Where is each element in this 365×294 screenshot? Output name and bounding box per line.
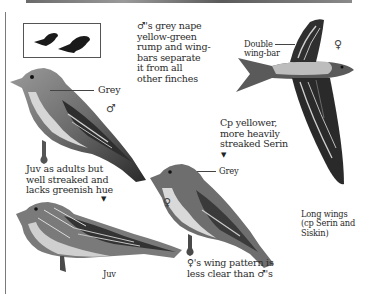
- top-border-rule: [26, 0, 352, 3]
- field-guide-plate: Grey ♂ ♂'s grey nape yellow-green rump a…: [0, 0, 365, 294]
- juv-label: Juv: [103, 270, 116, 279]
- arrow-down-icon: ▼: [221, 151, 226, 159]
- long-wings-note: Long wings (cp Serin and Siskin): [301, 210, 355, 238]
- serin-comparison-note: Cp yellower, more heavily streaked Serin: [220, 118, 288, 150]
- male-identification-note: ♂'s grey nape yellow-green rump and wing…: [137, 21, 210, 84]
- flight-female-symbol: ♀: [334, 38, 342, 51]
- male-symbol: ♂: [106, 102, 116, 115]
- female-wing-pattern-note: ♀'s wing pattern is less clear than ♂'s: [187, 258, 274, 279]
- double-wing-bar-label: Double wing-bar: [244, 40, 280, 59]
- juvenile-bird-illustration: [14, 198, 184, 283]
- perched-silhouettes-icon: [24, 24, 100, 57]
- wing-bar-leader-line: [275, 44, 295, 45]
- grey-leader-line: [50, 90, 94, 91]
- left-border-rule: [5, 12, 6, 294]
- juvenile-note: Juv as adults but well streaked and lack…: [26, 164, 113, 196]
- silhouette-box: [23, 23, 101, 58]
- grey-label-male: Grey: [98, 85, 120, 96]
